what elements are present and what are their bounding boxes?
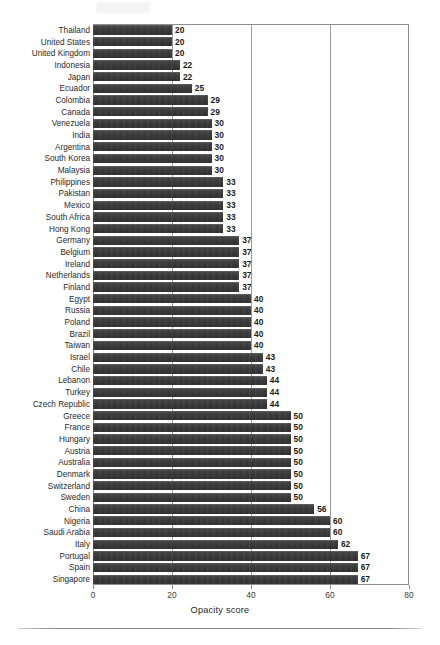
bar-value-label: 44 (270, 387, 279, 397)
bar-row: Spain67 (0, 562, 440, 574)
category-label: South Africa (46, 212, 90, 221)
category-label: Germany (56, 236, 90, 245)
bar-row: United States20 (0, 36, 440, 48)
bar-value-label: 60 (333, 527, 342, 537)
bar (93, 458, 291, 467)
bar (93, 516, 330, 525)
category-label: Spain (69, 563, 90, 572)
category-label: Ireland (65, 259, 90, 268)
bar (93, 212, 223, 221)
category-label: Portugal (60, 551, 91, 560)
bar-row: Indonesia22 (0, 59, 440, 71)
x-tick-mark-40 (251, 585, 252, 589)
bar-row: South Africa33 (0, 211, 440, 223)
bar-row: Egypt40 (0, 293, 440, 305)
bar-row: Sweden50 (0, 492, 440, 504)
bar-row: Chile43 (0, 363, 440, 375)
category-label: Malaysia (58, 166, 90, 175)
bar-value-label: 30 (215, 165, 224, 175)
bar-value-label: 50 (294, 446, 303, 456)
bar (93, 294, 251, 303)
bar-row: Hong Kong33 (0, 223, 440, 235)
category-label: Finland (63, 282, 90, 291)
bar-value-label: 60 (333, 516, 342, 526)
bar (93, 37, 172, 46)
category-label: Russia (65, 306, 90, 315)
category-label: United States (41, 37, 90, 46)
x-tick-label: 60 (325, 590, 334, 600)
bar (93, 353, 263, 362)
bar-value-label: 44 (270, 399, 279, 409)
bar-row: Australia50 (0, 456, 440, 468)
bar-value-label: 33 (226, 212, 235, 222)
x-axis: 020406080 (0, 585, 440, 607)
bar (93, 236, 239, 245)
bar-value-label: 22 (183, 60, 192, 70)
category-label: Saudi Arabia (44, 528, 90, 537)
bar-row: Germany37 (0, 234, 440, 246)
x-tick-label: 20 (167, 590, 176, 600)
category-label: South Korea (44, 154, 90, 163)
bar (93, 107, 208, 116)
bar-value-label: 30 (215, 130, 224, 140)
bar-value-label: 67 (361, 551, 370, 561)
bar-value-label: 40 (254, 317, 263, 327)
bar (93, 177, 223, 186)
bar-row: Ireland37 (0, 258, 440, 270)
bar (93, 282, 239, 291)
bar (93, 364, 263, 373)
bar-row: Thailand20 (0, 24, 440, 36)
category-label: Austria (65, 446, 90, 455)
bar-row: Ecuador25 (0, 82, 440, 94)
bar-row: China56 (0, 503, 440, 515)
chart-figure: Thailand20United States20United Kingdom2… (0, 0, 440, 645)
bar (93, 25, 172, 34)
category-label: Netherlands (46, 271, 90, 280)
category-label: Poland (65, 318, 91, 327)
bar-row: Venezuela30 (0, 118, 440, 130)
bar (93, 423, 291, 432)
bar-row: Switzerland50 (0, 480, 440, 492)
bar-row: Pakistan33 (0, 188, 440, 200)
category-label: Turkey (65, 388, 90, 397)
bar-value-label: 43 (266, 352, 275, 362)
category-label: Colombia (55, 95, 90, 104)
bar (93, 189, 223, 198)
category-label: Indonesia (54, 60, 90, 69)
bar-value-label: 37 (242, 282, 251, 292)
bar-row: Saudi Arabia60 (0, 527, 440, 539)
bar-row: South Korea30 (0, 153, 440, 165)
category-label: Mexico (64, 201, 90, 210)
bar (93, 72, 180, 81)
category-label: Czech Republic (33, 399, 90, 408)
bar-row: United Kingdom20 (0, 47, 440, 59)
category-label: Brazil (70, 329, 90, 338)
bar (93, 376, 267, 385)
bar-row: Argentina30 (0, 141, 440, 153)
category-label: Belgium (60, 247, 90, 256)
bar-value-label: 30 (215, 153, 224, 163)
bar (93, 317, 251, 326)
category-label: France (65, 423, 90, 432)
bar-value-label: 25 (195, 83, 204, 93)
bar-row: Turkey44 (0, 386, 440, 398)
category-label: China (69, 505, 90, 514)
bar-row: Denmark50 (0, 468, 440, 480)
bar (93, 551, 358, 560)
bar-value-label: 37 (242, 259, 251, 269)
bar (93, 119, 212, 128)
bar (93, 434, 291, 443)
bar-value-label: 50 (294, 457, 303, 467)
category-label: Argentina (55, 142, 90, 151)
bar (93, 154, 212, 163)
bar-row: Brazil40 (0, 328, 440, 340)
bar-row: Lebanon44 (0, 375, 440, 387)
category-label: India (72, 131, 90, 140)
category-label: Greece (63, 411, 90, 420)
bar-row: France50 (0, 421, 440, 433)
bar-row: Japan22 (0, 71, 440, 83)
bar-value-label: 20 (175, 25, 184, 35)
category-label: Japan (68, 72, 90, 81)
bar-row: Mexico33 (0, 199, 440, 211)
category-label: Australia (58, 458, 90, 467)
